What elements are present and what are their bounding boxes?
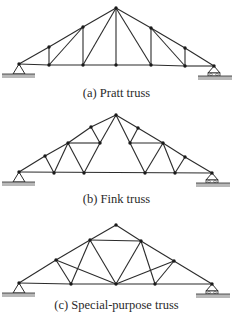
truss-joint bbox=[17, 170, 20, 173]
truss-member bbox=[68, 127, 91, 143]
caption-special-purpose: (c) Special-purpose truss bbox=[0, 298, 233, 313]
truss-joint bbox=[89, 125, 92, 128]
truss-joint bbox=[139, 239, 142, 242]
truss-member bbox=[163, 143, 175, 173]
truss-member bbox=[151, 65, 185, 66]
truss-member bbox=[19, 64, 49, 65]
truss-joint bbox=[183, 64, 186, 67]
truss-joint bbox=[69, 282, 72, 285]
truss-joint bbox=[210, 171, 213, 174]
truss-member bbox=[56, 260, 71, 284]
truss-member bbox=[130, 143, 145, 173]
truss-joint bbox=[173, 171, 176, 174]
truss-member bbox=[19, 260, 56, 283]
truss-joint bbox=[17, 62, 20, 65]
truss-member bbox=[185, 157, 212, 173]
truss-member bbox=[116, 261, 174, 284]
fink-truss bbox=[2, 113, 230, 187]
ground-hatch bbox=[2, 293, 35, 297]
truss-joint bbox=[66, 141, 69, 144]
truss-member bbox=[56, 260, 116, 284]
truss-member bbox=[68, 143, 84, 173]
truss-joint bbox=[81, 25, 84, 28]
truss-member bbox=[116, 8, 151, 28]
truss-joint bbox=[149, 26, 152, 29]
truss-joint bbox=[47, 63, 50, 66]
truss-member bbox=[90, 240, 116, 284]
truss-joint bbox=[114, 282, 117, 285]
caption-fink: (b) Fink truss bbox=[0, 192, 233, 207]
truss-joint bbox=[47, 45, 50, 48]
truss-member bbox=[56, 240, 90, 260]
truss-joint bbox=[212, 64, 215, 67]
truss-member bbox=[19, 172, 212, 173]
truss-joint bbox=[143, 171, 146, 174]
pratt-truss bbox=[2, 6, 232, 80]
ground-hatch bbox=[2, 182, 35, 186]
truss-joint bbox=[114, 113, 117, 116]
truss-joint bbox=[149, 63, 152, 66]
truss-joint bbox=[183, 155, 186, 158]
ground-hatch bbox=[198, 76, 232, 80]
truss-joint bbox=[172, 259, 175, 262]
truss-member bbox=[90, 240, 141, 241]
truss-joint bbox=[17, 281, 20, 284]
caption-pratt: (a) Pratt truss bbox=[0, 86, 233, 101]
truss-member bbox=[151, 28, 185, 48]
truss-joint bbox=[82, 171, 85, 174]
truss-joint bbox=[98, 141, 101, 144]
truss-member bbox=[49, 27, 83, 65]
special-purpose-truss bbox=[2, 223, 230, 298]
ground-hatch bbox=[196, 183, 230, 187]
truss-joint bbox=[153, 282, 156, 285]
truss-diagrams bbox=[0, 0, 233, 321]
truss-joint bbox=[136, 126, 139, 129]
truss-member bbox=[19, 283, 71, 284]
truss-joint bbox=[114, 223, 117, 226]
truss-member bbox=[19, 156, 45, 172]
truss-member bbox=[185, 48, 214, 66]
truss-joint bbox=[210, 282, 213, 285]
truss-joint bbox=[52, 171, 55, 174]
truss-joint bbox=[81, 63, 84, 66]
truss-member bbox=[116, 8, 151, 65]
truss-member bbox=[138, 128, 163, 143]
truss-member bbox=[71, 240, 90, 284]
truss-member bbox=[141, 241, 155, 284]
truss-member bbox=[45, 156, 54, 173]
truss-member bbox=[174, 261, 212, 284]
truss-member bbox=[145, 143, 163, 173]
truss-member bbox=[83, 8, 116, 65]
truss-joint bbox=[183, 46, 186, 49]
truss-member bbox=[84, 143, 100, 173]
ground-hatch bbox=[2, 74, 35, 78]
truss-joint bbox=[128, 141, 131, 144]
truss-joint bbox=[114, 6, 117, 9]
truss-member bbox=[116, 241, 141, 284]
truss-member bbox=[90, 225, 116, 240]
truss-member bbox=[49, 27, 83, 47]
truss-joint bbox=[114, 63, 117, 66]
truss-member bbox=[130, 128, 138, 143]
truss-member bbox=[116, 225, 141, 241]
truss-member bbox=[91, 127, 100, 143]
truss-member bbox=[151, 28, 185, 66]
truss-member bbox=[19, 47, 49, 64]
truss-joint bbox=[88, 238, 91, 241]
truss-member bbox=[175, 157, 185, 173]
truss-joint bbox=[43, 154, 46, 157]
truss-joint bbox=[54, 258, 57, 261]
truss-member bbox=[141, 241, 174, 261]
truss-joint bbox=[161, 141, 164, 144]
